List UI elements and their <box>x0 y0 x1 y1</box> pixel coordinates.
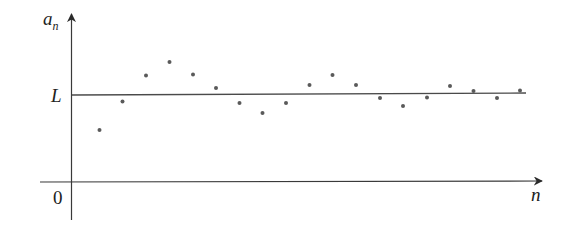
y-axis-label-subscript: n <box>53 19 59 33</box>
data-point <box>238 101 242 105</box>
data-point <box>284 101 288 105</box>
data-point <box>308 83 312 87</box>
data-point <box>168 60 172 64</box>
sequence-convergence-chart: an L 0 n <box>0 0 562 225</box>
data-point <box>98 128 102 132</box>
x-axis-label: n <box>531 184 541 205</box>
data-point <box>121 100 125 104</box>
data-point <box>331 73 335 77</box>
data-point <box>144 74 148 78</box>
data-point <box>214 86 218 90</box>
data-point <box>378 96 382 100</box>
data-point <box>448 84 452 88</box>
data-point <box>425 96 429 100</box>
y-axis-label: an <box>43 8 59 33</box>
data-point <box>472 89 476 93</box>
data-point <box>261 111 265 115</box>
origin-label: 0 <box>53 187 63 208</box>
y-axis-label-main: a <box>43 8 53 29</box>
sequence-points <box>98 60 523 132</box>
data-point <box>495 96 499 100</box>
data-point <box>518 89 522 93</box>
x-axis <box>40 181 542 182</box>
data-point <box>401 104 405 108</box>
limit-label: L <box>50 85 62 106</box>
limit-line <box>72 93 526 95</box>
data-point <box>354 83 358 87</box>
data-point <box>191 73 195 77</box>
